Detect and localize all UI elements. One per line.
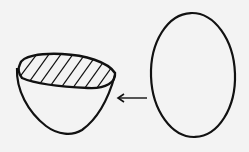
oval	[149, 12, 237, 139]
arrow	[118, 94, 147, 102]
cut-bowl	[10, 50, 136, 134]
diagram-canvas	[0, 0, 249, 152]
